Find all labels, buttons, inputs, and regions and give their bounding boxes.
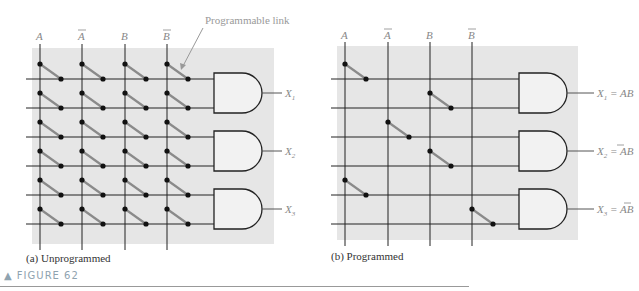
- link-node: [58, 105, 63, 110]
- output-x2-label: X2 = AB: [596, 145, 634, 160]
- link-node: [79, 90, 84, 95]
- caption-b: (b) Programmed: [331, 250, 403, 262]
- link-node: [122, 148, 127, 153]
- link-node: [143, 105, 148, 110]
- link-node: [100, 163, 105, 168]
- link-node: [100, 192, 105, 197]
- figure-divider: [0, 286, 469, 287]
- link-node: [143, 221, 148, 226]
- input-b-label: B: [426, 29, 433, 41]
- link-node: [58, 221, 63, 226]
- link-node: [122, 90, 127, 95]
- link-node: [185, 221, 190, 226]
- link-node: [342, 177, 347, 182]
- link-node: [37, 148, 42, 153]
- link-node: [164, 148, 169, 153]
- output-x1-label: X1 = AB: [596, 87, 634, 102]
- link-node: [185, 76, 190, 81]
- and-gate-2: [214, 131, 262, 171]
- link-node: [427, 90, 432, 95]
- input-a-bar-label: A: [383, 29, 391, 41]
- figure-label: ▲ FIGURE 62: [4, 270, 79, 281]
- input-a-label: A: [35, 30, 43, 42]
- panel-a-and-gates: [214, 73, 262, 229]
- link-node: [164, 119, 169, 124]
- link-node: [143, 134, 148, 139]
- link-node: [37, 61, 42, 66]
- link-node: [79, 148, 84, 153]
- link-node: [100, 221, 105, 226]
- link-node: [122, 119, 127, 124]
- link-node: [164, 177, 169, 182]
- link-node: [100, 76, 105, 81]
- link-node: [185, 163, 190, 168]
- output-x2-label: X2: [284, 145, 296, 160]
- and-gate-1: [214, 73, 262, 113]
- link-node: [342, 61, 347, 66]
- output-x1-label: X1: [284, 87, 295, 102]
- link-node: [164, 206, 169, 211]
- link-node: [37, 90, 42, 95]
- input-b-bar-label: B: [163, 30, 170, 42]
- link-node: [37, 206, 42, 211]
- pla-diagram: A A B B X1 X2 X3 Programmable link: [0, 0, 639, 291]
- and-gate-2: [519, 131, 567, 171]
- link-node: [164, 90, 169, 95]
- link-node: [427, 148, 432, 153]
- link-node: [143, 163, 148, 168]
- output-x3-label: X3 = AB: [596, 203, 634, 218]
- link-node: [122, 177, 127, 182]
- link-node: [58, 163, 63, 168]
- link-node: [448, 163, 453, 168]
- input-a-bar-label: A: [77, 30, 85, 42]
- link-node: [58, 76, 63, 81]
- link-node: [143, 76, 148, 81]
- link-node: [37, 119, 42, 124]
- panel-b-and-gates: [519, 73, 567, 229]
- programmable-link-annotation: Programmable link: [205, 14, 290, 26]
- link-node: [490, 221, 495, 226]
- link-node: [385, 119, 390, 124]
- link-node: [79, 177, 84, 182]
- link-node: [448, 105, 453, 110]
- input-b-bar-label: B: [468, 29, 475, 41]
- output-x3-label: X3: [284, 203, 296, 218]
- link-node: [363, 192, 368, 197]
- link-node: [58, 134, 63, 139]
- link-node: [185, 192, 190, 197]
- link-node: [185, 105, 190, 110]
- link-node: [37, 177, 42, 182]
- caption-a: (a) Unprogrammed: [26, 252, 111, 264]
- input-b-label: B: [121, 30, 128, 42]
- link-node: [164, 61, 169, 66]
- link-node: [58, 192, 63, 197]
- input-a-label: A: [340, 29, 348, 41]
- link-node: [100, 105, 105, 110]
- link-node: [469, 206, 474, 211]
- link-node: [406, 134, 411, 139]
- and-gate-3: [519, 189, 567, 229]
- and-gate-3: [214, 189, 262, 229]
- link-node: [122, 206, 127, 211]
- link-node: [185, 134, 190, 139]
- link-node: [100, 134, 105, 139]
- link-node: [79, 119, 84, 124]
- link-node: [143, 192, 148, 197]
- link-node: [122, 61, 127, 66]
- link-node: [79, 206, 84, 211]
- and-gate-1: [519, 73, 567, 113]
- link-node: [363, 76, 368, 81]
- link-node: [79, 61, 84, 66]
